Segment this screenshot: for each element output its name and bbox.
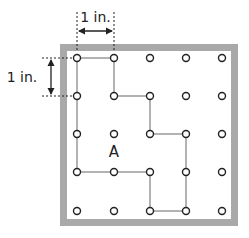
vertical-dimension-label: 1 in. [7, 69, 38, 85]
peg [183, 55, 190, 62]
peg [111, 55, 118, 62]
arrowhead-down-icon [48, 88, 55, 95]
peg [74, 208, 81, 215]
peg [74, 131, 81, 138]
peg [147, 208, 154, 215]
arrowhead-up-icon [48, 59, 55, 66]
peg [74, 55, 81, 62]
peg [219, 169, 226, 176]
peg [219, 93, 226, 100]
peg [219, 208, 226, 215]
horizontal-dimension-label: 1 in. [80, 9, 111, 25]
peg [183, 131, 190, 138]
geoboard-diagram: 1 in. 1 in. A [0, 0, 249, 238]
peg [219, 131, 226, 138]
peg [147, 169, 154, 176]
peg [111, 131, 118, 138]
peg [74, 93, 81, 100]
peg [183, 208, 190, 215]
peg [111, 208, 118, 215]
peg [219, 55, 226, 62]
peg [74, 169, 81, 176]
peg [183, 93, 190, 100]
peg [111, 169, 118, 176]
arrowhead-left-icon [78, 28, 85, 35]
peg [183, 169, 190, 176]
region-label-a: A [109, 143, 120, 161]
peg [147, 93, 154, 100]
peg [111, 93, 118, 100]
figure-a-outline [77, 58, 186, 211]
arrowhead-right-icon [106, 28, 113, 35]
peg [147, 55, 154, 62]
peg [147, 131, 154, 138]
